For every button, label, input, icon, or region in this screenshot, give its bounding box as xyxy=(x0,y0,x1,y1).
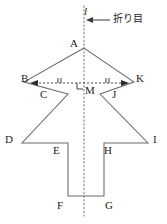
fold-line-label-l: l xyxy=(84,6,87,17)
vertex-label-c: C xyxy=(40,89,47,100)
vertex-label-a: A xyxy=(70,38,78,49)
figure-outline-path xyxy=(22,48,148,196)
vertex-label-f: F xyxy=(57,200,63,211)
vertex-label-i: I xyxy=(153,134,157,145)
fold-line-callout-arrow xyxy=(86,17,110,23)
vertex-label-d: D xyxy=(5,134,13,145)
vertex-label-b: B xyxy=(21,73,28,84)
fold-line-annotation-orime: 折り目 xyxy=(113,14,143,24)
figure-drawing xyxy=(0,0,167,224)
figure-canvas: l 折り目 A B K C M J D E H I F G xyxy=(0,0,167,224)
equal-tick-mk xyxy=(106,78,109,83)
vertex-label-m: M xyxy=(85,85,95,96)
equal-tick-bm xyxy=(58,78,61,83)
vertex-label-k: K xyxy=(136,73,144,84)
vertex-label-e: E xyxy=(53,145,60,156)
vertex-label-g: G xyxy=(105,200,113,211)
right-angle-mark-m xyxy=(77,83,83,89)
vertex-label-j: J xyxy=(112,89,116,100)
vertex-label-h: H xyxy=(104,145,112,156)
segment-bk-measure xyxy=(30,80,129,86)
